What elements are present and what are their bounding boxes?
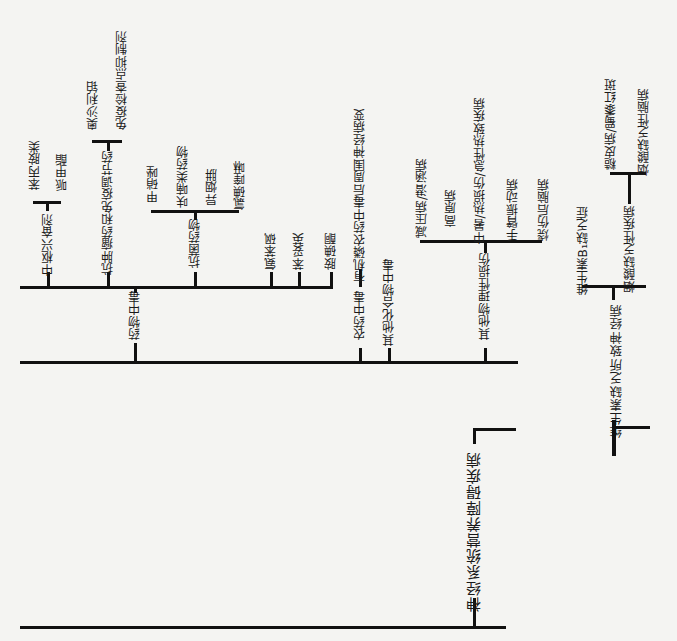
altitude-label: 高原病	[444, 189, 458, 227]
pest-label: 农药中毒	[353, 290, 367, 340]
metro-label: 甲硝唑	[146, 165, 160, 203]
decomp-label: 减压病/潜涵病	[415, 158, 429, 238]
classification-tree: 神经系统营养障碍疾病 药物中毒 中枢兴奋剂 苯丙胺类 哌甲酯 抗肿瘤药和免疫调节…	[0, 0, 677, 641]
op-label: 有机磷农药中毒后周围神经病变	[353, 108, 367, 283]
burn-label: 烧伤后脑病	[537, 178, 551, 241]
inh-label: 异烟肼	[205, 168, 219, 206]
pellagra-label: 糙皮病/蜀黍红斑	[604, 78, 618, 170]
root-label: 神经系统营养障碍疾病	[466, 452, 483, 612]
phys-label: 其他物理性损伤	[478, 252, 492, 340]
drug-subline	[20, 286, 333, 289]
cns-brace-mid	[46, 201, 49, 211]
amio-label: 胺碘酮	[324, 232, 338, 270]
vit-connector	[612, 286, 615, 300]
amph-label: 苯丙胺类	[28, 140, 42, 190]
clio-label: 氯碘喹啉	[233, 160, 247, 210]
onco-brace	[92, 140, 122, 143]
oxa-label: 奥沙利铂	[86, 80, 100, 130]
abx-brace	[151, 210, 239, 213]
dapsone-label: 氨苯砜	[264, 232, 278, 270]
b1-label: 维生素B₁缺乏症	[576, 206, 590, 295]
niacin-label: 烟酸缺乏性疾病	[623, 205, 637, 293]
havs-label: 手臂振动病	[506, 178, 520, 241]
onco-label: 抗肿瘤药和免疫调节药	[101, 150, 115, 275]
abx-connector	[194, 212, 197, 220]
other-chem-label: 其他化合物中毒	[382, 258, 396, 346]
niacin-connector	[628, 172, 631, 204]
vit-stub	[473, 428, 516, 431]
root-connector	[473, 430, 476, 444]
niacin-enc-label: 烟酸缺乏性脑病	[637, 88, 651, 176]
pest-stem	[359, 348, 362, 363]
amio-stem	[330, 272, 333, 287]
phenytoin-label: 苯妥英	[292, 232, 306, 270]
vit-label: 维生素缺乏所致神经病	[610, 303, 624, 438]
dapsone-stem	[270, 272, 273, 287]
ici-label: 免疫检查点抑制剂	[115, 30, 129, 130]
abx-label: 抗菌药物	[188, 218, 202, 268]
level1-line	[20, 361, 518, 364]
cns-label: 中枢兴奋剂	[41, 213, 55, 276]
phenytoin-stem	[298, 272, 301, 287]
vit-base	[612, 426, 650, 429]
drug-label: 药物中毒	[128, 290, 142, 340]
heat-label: 中暑/热损伤/急性热致疾病	[473, 97, 487, 244]
drug-stem	[134, 343, 137, 363]
mph-label: 哌甲酯	[55, 153, 69, 191]
root-line	[20, 626, 506, 629]
phys-stem	[484, 348, 487, 363]
furan-label: 呋喃类药物	[176, 145, 190, 208]
abx-stem	[194, 272, 197, 287]
other-chem-stem	[388, 348, 391, 363]
